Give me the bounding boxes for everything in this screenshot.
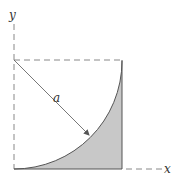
radius-arrow [14, 60, 89, 135]
radius-label: a [53, 91, 60, 105]
x-axis-label: x [164, 162, 171, 176]
y-axis-label: y [8, 8, 16, 22]
quarter-circle-diagram: y x a [0, 0, 181, 183]
shaded-region [14, 61, 122, 169]
